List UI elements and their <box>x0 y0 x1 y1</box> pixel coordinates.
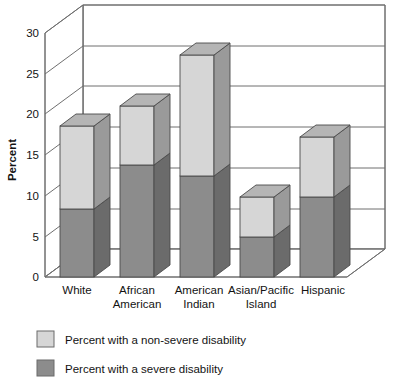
bar-american-indian-nonsevere-front <box>180 55 214 176</box>
y-tick-25: 25 <box>26 68 39 80</box>
x-label-african-american-line2: American <box>113 298 162 310</box>
y-tick-5: 5 <box>33 231 39 243</box>
legend-swatch-severe <box>37 360 54 376</box>
bar-white-severe-side <box>94 197 110 277</box>
y-axis-title: Percent <box>6 139 18 181</box>
legend-swatch-non-severe <box>37 331 54 347</box>
bar-hispanic-severe-front <box>300 197 334 277</box>
bar-african-american-nonsevere-front <box>120 106 154 165</box>
x-axis-labels: White African American American Indian A… <box>62 284 345 310</box>
bar-american-indian-severe-side <box>214 164 230 277</box>
bar-group-african-american <box>120 94 170 277</box>
chart-canvas: 30 25 20 15 10 5 0 Percent <box>0 0 395 382</box>
bar-white-severe-front <box>60 209 94 277</box>
stacked-bar-chart: 30 25 20 15 10 5 0 Percent <box>0 0 395 382</box>
bar-white-nonsevere-side <box>94 114 110 209</box>
y-tick-0: 0 <box>33 271 39 283</box>
y-tick-30: 30 <box>26 27 39 39</box>
bar-asian-pacific-island-nonsevere-front <box>240 197 274 237</box>
bar-american-indian-severe-front <box>180 176 214 277</box>
bar-hispanic-severe-side <box>334 185 350 277</box>
x-label-asian-pacific-island-line2: Island <box>246 298 277 310</box>
bar-hispanic-nonsevere-side <box>334 125 350 197</box>
bar-group-asian-pacific-island <box>240 185 290 277</box>
chart-legend: Percent with a non-severe disability Per… <box>37 331 246 376</box>
y-tick-20: 20 <box>26 108 39 120</box>
bar-asian-pacific-island-severe-front <box>240 237 274 277</box>
x-label-hispanic-line1: Hispanic <box>301 284 345 296</box>
y-tick-10: 10 <box>26 190 39 202</box>
bar-group-american-indian <box>180 43 230 277</box>
bar-american-indian-nonsevere-side <box>214 43 230 176</box>
x-label-asian-pacific-island-line1: Asian/Pacific <box>228 284 294 296</box>
bar-group-hispanic <box>300 125 350 277</box>
x-label-american-indian-line1: American <box>175 284 224 296</box>
legend-label-non-severe: Percent with a non-severe disability <box>65 334 246 346</box>
bar-hispanic-nonsevere-front <box>300 137 334 197</box>
x-label-white-line1: White <box>62 284 91 296</box>
y-tick-15: 15 <box>26 149 39 161</box>
bar-african-american-severe-front <box>120 165 154 277</box>
x-label-american-indian-line2: Indian <box>183 298 214 310</box>
bar-white-nonsevere-front <box>60 126 94 209</box>
x-label-african-american-line1: African <box>119 284 155 296</box>
legend-label-severe: Percent with a severe disability <box>65 363 223 375</box>
y-axis-ticks: 30 25 20 15 10 5 0 <box>26 27 39 283</box>
bar-african-american-severe-side <box>154 153 170 277</box>
bar-group-white <box>60 114 110 277</box>
